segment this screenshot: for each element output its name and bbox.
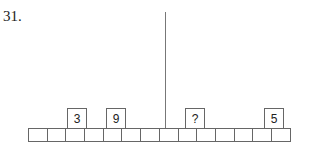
grid-cell bbox=[252, 128, 272, 142]
grid-cell bbox=[140, 128, 160, 142]
grid-cell bbox=[28, 128, 48, 142]
grid-cell bbox=[47, 128, 67, 142]
grid-cell bbox=[178, 128, 198, 142]
box-unknown: ? bbox=[185, 108, 205, 129]
box-9: 9 bbox=[106, 108, 126, 129]
grid-cell bbox=[271, 128, 291, 142]
question-number: 31. bbox=[3, 8, 22, 25]
grid-cell bbox=[65, 128, 85, 142]
cell-row bbox=[28, 128, 291, 142]
center-divider-line bbox=[165, 12, 166, 128]
grid-cell bbox=[234, 128, 254, 142]
grid-cell bbox=[84, 128, 104, 142]
box-3: 3 bbox=[67, 108, 87, 129]
grid-cell bbox=[159, 128, 179, 142]
grid-cell bbox=[103, 128, 123, 142]
grid-cell bbox=[196, 128, 216, 142]
grid-cell bbox=[121, 128, 141, 142]
grid-cell bbox=[215, 128, 235, 142]
box-5: 5 bbox=[264, 108, 284, 129]
